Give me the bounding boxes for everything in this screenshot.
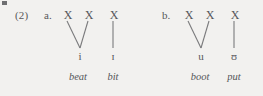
association-line-b-1 (188, 21, 201, 48)
segment-a-1: i (73, 50, 87, 62)
x-slot-b-2: X (204, 8, 216, 23)
gloss-a-1: beat (58, 71, 98, 82)
association-line-a-1 (67, 21, 80, 48)
group-label-b: b. (162, 9, 170, 21)
x-slot-b-1: X (183, 8, 195, 23)
association-line-a-2 (80, 21, 88, 48)
x-slot-b-3: X (229, 8, 241, 23)
scan-artifact-mark (2, 1, 7, 5)
group-label-a: a. (44, 9, 52, 21)
segment-b-1: u (194, 50, 208, 62)
gloss-b-2: put (214, 71, 254, 82)
x-slot-a-2: X (83, 8, 95, 23)
x-slot-a-3: X (108, 8, 120, 23)
example-number: (2) (15, 9, 28, 21)
segment-a-2: ɪ (106, 50, 120, 62)
segment-b-2: ʊ (227, 50, 241, 62)
autosegmental-figure: (2) a. X X X i ɪ beat bit b. X X X u ʊ b… (0, 0, 263, 96)
association-line-b-2 (201, 21, 209, 48)
gloss-a-2: bit (93, 71, 133, 82)
x-slot-a-1: X (62, 8, 74, 23)
